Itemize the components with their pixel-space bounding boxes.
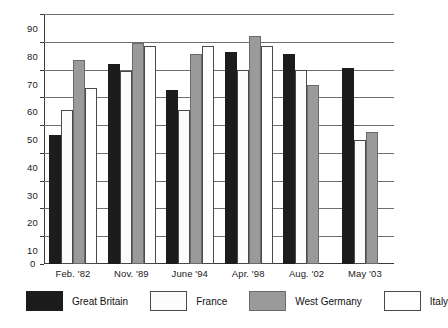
y-axis-tick-label: 70 [16, 78, 38, 89]
bar [132, 43, 144, 264]
y-axis-tick-label: 50 [16, 134, 38, 145]
bar-group [342, 14, 390, 264]
legend-swatch [384, 291, 421, 311]
y-axis-tick-label: 80 [16, 50, 38, 61]
x-axis-tick-label: June '94 [163, 268, 217, 284]
bar [261, 46, 273, 264]
plot-area [44, 14, 394, 264]
bar-group [108, 14, 156, 264]
legend-label: Italy [430, 296, 448, 307]
y-axis-labels: 102030405060708090 [0, 14, 40, 264]
bar [366, 132, 378, 264]
legend-entry: France [150, 291, 227, 311]
legend-label: France [196, 296, 227, 307]
bar [166, 90, 178, 264]
legend-label: Great Britain [72, 296, 128, 307]
x-axis-labels: Feb. '82Nov. '89June '94Apr. '98Aug. '02… [44, 268, 394, 284]
y-axis-tick-label: 40 [16, 161, 38, 172]
bar [342, 68, 354, 264]
bar [237, 70, 249, 264]
bar-group [49, 14, 97, 264]
x-axis-tick-label: Apr. '98 [221, 268, 275, 284]
y-axis-tick-mark [40, 264, 44, 265]
bar [295, 70, 307, 264]
bar [190, 54, 202, 264]
bar [225, 52, 237, 265]
x-axis-tick-label: Aug. '02 [280, 268, 334, 284]
legend-entry: Great Britain [26, 291, 128, 311]
chart-legend: Great BritainFranceWest GermanyItaly [22, 288, 402, 314]
y-axis-tick-label: 30 [16, 189, 38, 200]
legend-entry: Italy [384, 291, 448, 311]
x-axis-tick-label: May '03 [338, 268, 392, 284]
y-axis-zero-label: 0 [30, 258, 35, 269]
y-axis-tick-label: 90 [16, 23, 38, 34]
bar [202, 46, 214, 264]
y-axis-tick-label: 60 [16, 106, 38, 117]
x-axis-tick-label: Nov. '89 [104, 268, 158, 284]
bar [108, 64, 120, 264]
legend-entry: West Germany [249, 291, 362, 311]
bar-group [225, 14, 273, 264]
y-axis-tick-label: 20 [16, 217, 38, 228]
bar-group [283, 14, 331, 264]
bar [178, 110, 190, 264]
legend-label: West Germany [295, 296, 362, 307]
bar [354, 140, 366, 264]
bar [249, 36, 261, 264]
legend-swatch [249, 291, 286, 311]
legend-swatch [26, 291, 63, 311]
y-axis-tick-label: 10 [16, 245, 38, 256]
bar [144, 46, 156, 264]
bar [85, 88, 97, 264]
bar-groups [44, 14, 394, 264]
legend-swatch [150, 291, 187, 311]
bar [120, 71, 132, 264]
bar [307, 85, 319, 264]
bar-group [166, 14, 214, 264]
x-axis-tick-label: Feb. '82 [46, 268, 100, 284]
bar [73, 60, 85, 264]
bar [283, 54, 295, 264]
bar [49, 135, 61, 264]
bar [61, 110, 73, 264]
